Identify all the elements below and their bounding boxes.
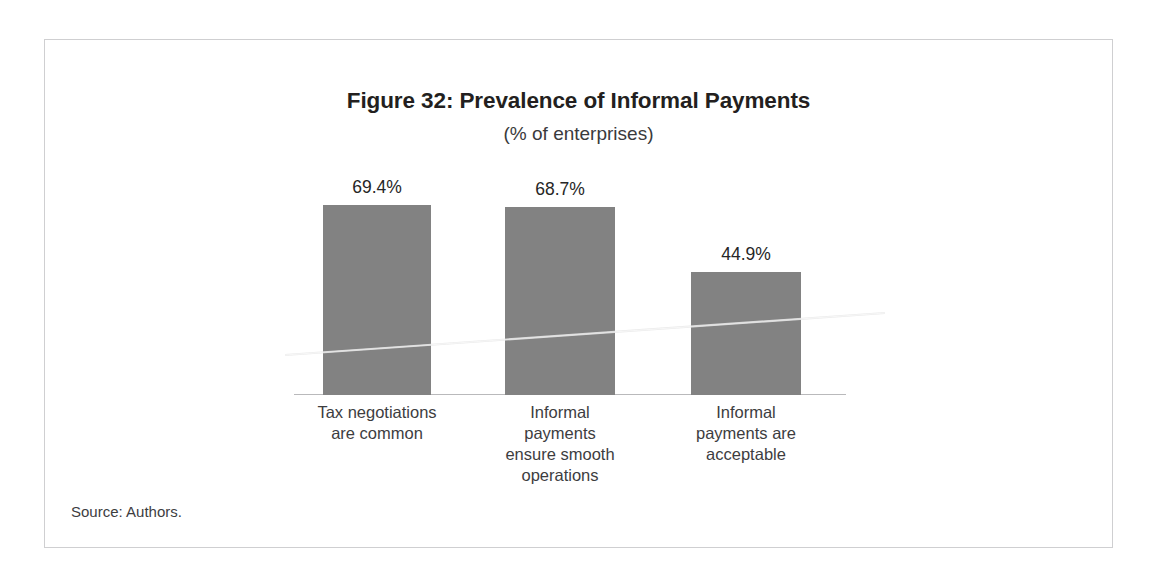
category-label: Tax negotiationsare common — [282, 402, 472, 444]
category-label-line: are common — [331, 424, 423, 442]
category-label-line: payments are — [696, 424, 796, 442]
bar-value-label: 68.7% — [535, 179, 585, 200]
bar-rect[interactable] — [505, 207, 615, 395]
category-label-line: acceptable — [706, 445, 786, 463]
category-label-line: Tax negotiations — [317, 403, 436, 421]
source-note: Source: Authors. — [71, 503, 182, 520]
bar-value-label: 69.4% — [352, 177, 402, 198]
category-label-line: ensure smooth — [505, 445, 614, 463]
category-label: Informalpayments areacceptable — [651, 402, 841, 465]
figure-frame: Figure 32: Prevalence of Informal Paymen… — [44, 39, 1113, 548]
bar-group: 44.9%Informalpayments areacceptable — [691, 40, 801, 395]
category-label-line: operations — [521, 466, 598, 484]
bar-rect[interactable] — [323, 205, 431, 395]
category-label-line: payments — [524, 424, 596, 442]
bar-group: 68.7%Informalpaymentsensure smoothoperat… — [505, 40, 615, 395]
category-label-line: Informal — [530, 403, 590, 421]
category-label: Informalpaymentsensure smoothoperations — [465, 402, 655, 486]
plot-area: 69.4%Tax negotiationsare common68.7%Info… — [45, 40, 1112, 547]
category-label-line: Informal — [716, 403, 776, 421]
bar-value-label: 44.9% — [721, 244, 771, 265]
bar-rect[interactable] — [691, 272, 801, 395]
bar-group: 69.4%Tax negotiationsare common — [323, 40, 431, 395]
